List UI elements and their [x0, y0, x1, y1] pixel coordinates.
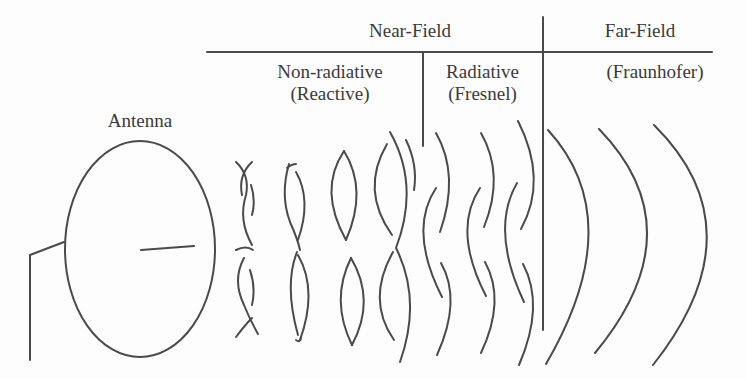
- near-field-label: Near-Field: [330, 20, 490, 42]
- antenna-icon: [30, 141, 215, 360]
- reactive-wave-column-1: [236, 162, 258, 337]
- reactive-wave-column-2: [285, 164, 309, 341]
- non-radiative-label: Non-radiative: [245, 61, 415, 83]
- far-field-label: Far-Field: [560, 20, 720, 42]
- radiative-wave-pattern: [406, 121, 534, 365]
- diagram-graphics: [0, 0, 746, 379]
- radiative-label: Radiative: [425, 61, 540, 83]
- reactive-label: (Reactive): [245, 83, 415, 105]
- antenna-field-regions-diagram: Near-Field Far-Field Non-radiative (Reac…: [0, 0, 746, 379]
- fresnel-label: (Fresnel): [425, 83, 540, 105]
- far-field-wave-pattern: [546, 125, 707, 365]
- reactive-wave-column-4: [375, 132, 410, 362]
- fraunhofer-label: (Fraunhofer): [575, 61, 735, 83]
- antenna-label: Antenna: [80, 110, 200, 132]
- reactive-wave-column-3: [331, 151, 363, 345]
